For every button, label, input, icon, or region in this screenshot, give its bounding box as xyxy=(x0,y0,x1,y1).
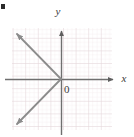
origin-label: 0 xyxy=(64,83,70,95)
x-axis-label: x xyxy=(121,72,127,84)
y-axis-label: y xyxy=(55,5,61,17)
graph-canvas: x y 0 xyxy=(0,0,134,137)
coordinate-plane-figure: x y 0 xyxy=(0,0,134,137)
